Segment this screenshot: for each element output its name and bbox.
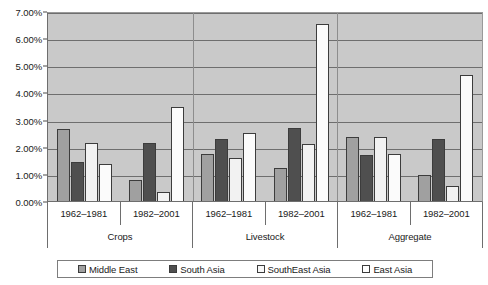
- legend-swatch-icon: [362, 265, 370, 273]
- bar-group: [410, 13, 482, 201]
- bar: [157, 192, 170, 202]
- legend-item: South Asia: [169, 264, 224, 275]
- y-axis-tick-label: 0.00%: [16, 197, 42, 208]
- legend-item-label: Middle East: [89, 264, 138, 275]
- legend-swatch-icon: [169, 265, 177, 273]
- legend-item: Middle East: [78, 264, 138, 275]
- y-axis-tick-label: 7.00%: [16, 7, 42, 18]
- x-axis-group-label: Livestock: [192, 225, 337, 248]
- bar: [302, 144, 315, 201]
- bar-group: [193, 13, 265, 201]
- bar: [316, 24, 329, 201]
- bar: [274, 168, 287, 201]
- legend-item-label: South Asia: [180, 264, 224, 275]
- bar: [201, 154, 214, 202]
- x-axis-period-label: 1962–1981: [47, 202, 120, 225]
- legend-item-label: SouthEast Asia: [268, 264, 331, 275]
- legend-item: SouthEast Asia: [257, 264, 331, 275]
- plot-area: [47, 12, 483, 202]
- bar: [388, 154, 401, 201]
- bar: [171, 107, 184, 201]
- bar: [143, 143, 156, 201]
- bar-chart: 0.00%1.00%2.00%3.00%4.00%5.00%6.00%7.00%…: [0, 0, 488, 285]
- bar: [460, 75, 473, 201]
- x-axis-period-label: 1982–2001: [410, 202, 484, 225]
- y-axis-tick-label: 1.00%: [16, 169, 42, 180]
- bar: [374, 137, 387, 201]
- x-axis-period-row: 1962–19811982–20011962–19811982–20011962…: [47, 202, 483, 225]
- legend-swatch-icon: [257, 265, 265, 273]
- x-axis-period-label: 1982–2001: [265, 202, 338, 225]
- group-divider: [337, 13, 338, 201]
- y-axis-tick-label: 2.00%: [16, 142, 42, 153]
- bar: [85, 143, 98, 201]
- y-axis-tick-label: 4.00%: [16, 88, 42, 99]
- bar: [418, 175, 431, 201]
- bar-group: [48, 13, 120, 201]
- bar: [215, 139, 228, 201]
- y-axis-tick-label: 3.00%: [16, 115, 42, 126]
- bar: [360, 155, 373, 201]
- legend-item: East Asia: [362, 264, 412, 275]
- bar: [99, 164, 112, 201]
- x-axis-group-label: Aggregate: [337, 225, 483, 248]
- bars-layer: [48, 13, 482, 201]
- bar-group: [337, 13, 409, 201]
- bar-group: [265, 13, 337, 201]
- y-axis: 0.00%1.00%2.00%3.00%4.00%5.00%6.00%7.00%: [0, 12, 47, 202]
- x-axis-group-row: CropsLivestockAggregate: [47, 225, 483, 248]
- legend-item-label: East Asia: [373, 264, 412, 275]
- bar: [288, 128, 301, 201]
- x-axis-period-label: 1982–2001: [120, 202, 193, 225]
- legend-swatch-icon: [78, 265, 86, 273]
- x-axis-period-label: 1962–1981: [337, 202, 410, 225]
- bar: [129, 180, 142, 201]
- x-axis: 1962–19811982–20011962–19811982–20011962…: [47, 202, 483, 248]
- bar: [346, 137, 359, 201]
- bar: [446, 186, 459, 201]
- y-axis-tick-label: 5.00%: [16, 61, 42, 72]
- bar-group: [120, 13, 192, 201]
- bar: [57, 129, 70, 201]
- bar: [229, 158, 242, 201]
- chart-legend: Middle EastSouth AsiaSouthEast AsiaEast …: [57, 260, 433, 278]
- bar: [71, 162, 84, 201]
- x-axis-period-label: 1962–1981: [192, 202, 265, 225]
- bar: [243, 133, 256, 201]
- y-axis-tick-label: 6.00%: [16, 34, 42, 45]
- group-divider: [193, 13, 194, 201]
- x-axis-group-label: Crops: [47, 225, 192, 248]
- bar: [432, 139, 445, 201]
